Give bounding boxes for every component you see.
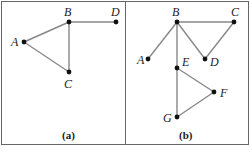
edge-A-B (24, 22, 69, 42)
edge-B-A (148, 22, 177, 59)
caption-a: (a) (62, 129, 75, 142)
edge-E-F (177, 68, 214, 92)
node-B (175, 20, 180, 25)
node-label-G: G (163, 111, 172, 125)
node-label-B: B (172, 5, 180, 19)
panel-b: ABCDEFG (136, 5, 240, 125)
node-label-E: E (181, 55, 190, 69)
edge-F-G (177, 92, 214, 117)
node-A (22, 40, 27, 45)
node-D (114, 20, 119, 25)
edge-B-D (177, 22, 205, 59)
node-A (146, 57, 151, 62)
edge-C-D (205, 22, 234, 59)
node-label-F: F (219, 86, 228, 100)
node-label-C: C (231, 5, 240, 19)
panel-a: ABCD (10, 5, 120, 91)
node-label-D: D (110, 5, 120, 19)
node-G (175, 115, 180, 120)
node-F (212, 90, 217, 95)
node-label-D: D (209, 55, 219, 69)
node-B (67, 20, 72, 25)
node-C (67, 70, 72, 75)
node-label-A: A (136, 53, 145, 67)
caption-b: (b) (179, 129, 193, 142)
node-label-B: B (64, 5, 72, 19)
graph-diagram: ABCD ABCDEFG (a) (b) (0, 0, 250, 156)
node-label-C: C (64, 77, 73, 91)
node-D (203, 57, 208, 62)
node-E (175, 66, 180, 71)
edge-A-C (24, 42, 69, 72)
node-label-A: A (10, 35, 19, 49)
node-C (232, 20, 237, 25)
